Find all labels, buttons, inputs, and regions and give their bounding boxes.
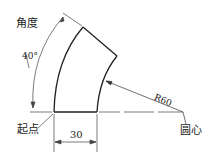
start-point-label: 起点 bbox=[17, 124, 39, 135]
width-dim-label: 30 bbox=[70, 130, 83, 140]
center-label: 圆心 bbox=[180, 125, 202, 136]
bend-shape bbox=[54, 27, 117, 112]
angle-title-label: 角度 bbox=[16, 18, 38, 29]
angle-value-label: 40° bbox=[22, 52, 38, 61]
radius-leader bbox=[106, 81, 186, 124]
start-point-leader bbox=[38, 114, 53, 128]
